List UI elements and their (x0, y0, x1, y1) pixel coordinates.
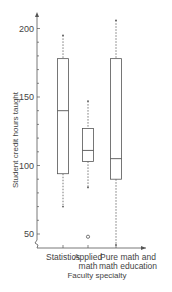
axis-break-icon (35, 240, 38, 248)
whisker-end-dot (62, 34, 64, 36)
y-tick-label: 200 (19, 24, 34, 34)
box-0: Statistics (46, 34, 80, 262)
box-1: Appliedmath (74, 100, 103, 271)
outlier-point (86, 235, 89, 238)
x-tick-label: math education (99, 261, 157, 271)
whisker-end-dot (87, 187, 89, 189)
iqr-box (111, 59, 122, 180)
whisker-end-dot (115, 19, 117, 21)
y-axis-title: Student credit hours taught (11, 91, 20, 188)
boxes: StatisticsAppliedmathPure math andmath e… (46, 19, 157, 271)
iqr-box (83, 129, 94, 162)
x-axis-title: Faculty specialty (67, 271, 126, 280)
y-tick-label: 150 (19, 92, 34, 102)
x-axis-arrow-icon (141, 246, 146, 250)
box-plot-chart: 50100150200 StatisticsAppliedmathPure ma… (0, 0, 172, 292)
whisker-end-dot (62, 206, 64, 208)
y-tick-label: 50 (24, 229, 34, 239)
x-tick-label: math (79, 261, 98, 271)
box-2: Pure math andmath education (99, 19, 157, 271)
whisker-end-dot (87, 100, 89, 102)
y-axis-arrow-icon (35, 12, 39, 17)
y-tick-label: 100 (19, 161, 34, 171)
iqr-box (58, 59, 69, 174)
